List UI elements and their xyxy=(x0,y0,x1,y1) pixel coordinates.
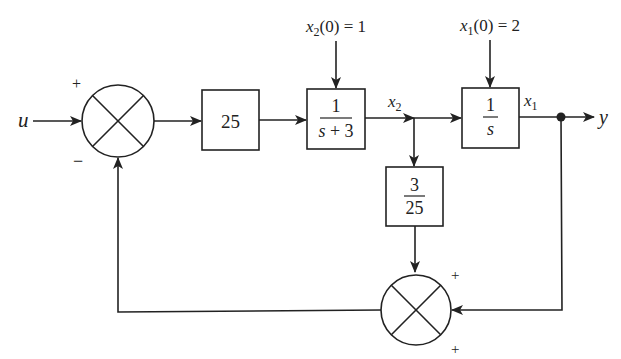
output-feedback-path xyxy=(452,117,562,310)
gain-label: 25 xyxy=(221,111,240,132)
sum1-plus-sign: + xyxy=(72,75,81,92)
summing-junction-2 xyxy=(381,275,451,345)
x1-label: x1 xyxy=(523,91,538,113)
block3-denominator: s xyxy=(487,119,494,139)
takeoff-point xyxy=(557,113,566,122)
sum2-bottom-sign: + xyxy=(451,341,459,357)
block2-numerator: 1 xyxy=(332,96,341,116)
x2-label: x2 xyxy=(387,92,402,114)
feedback-numerator: 3 xyxy=(410,175,419,195)
block3-numerator: 1 xyxy=(486,95,495,115)
ic2-label: x2(0) = 1 xyxy=(305,17,366,39)
block2-denominator: s + 3 xyxy=(318,121,353,141)
sum1-minus-sign: − xyxy=(73,151,83,171)
block-diagram: u y + − 25 1 s + 3 x2(0) = 1 x2 1 s x1(0… xyxy=(0,0,621,359)
ic1-label: x1(0) = 2 xyxy=(459,16,520,38)
sum2-top-sign: + xyxy=(451,267,459,283)
input-label: u xyxy=(18,108,29,132)
main-feedback-path xyxy=(118,158,381,312)
output-label: y xyxy=(597,106,608,129)
summing-junction-1 xyxy=(82,85,154,157)
feedback-denominator: 25 xyxy=(406,198,424,218)
